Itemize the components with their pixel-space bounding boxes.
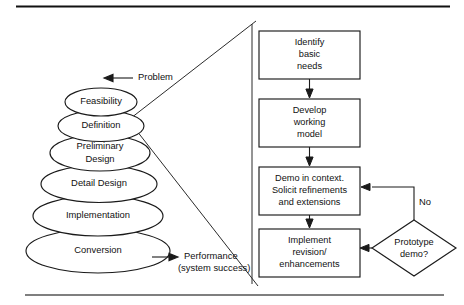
flow-box-identify-line2: basic	[299, 49, 321, 59]
stack-ellipse-feasibility: Feasibility	[65, 88, 137, 116]
flow-arrow-decision-to-implement	[360, 244, 372, 251]
flow-box-implement-line1: Implement	[288, 235, 331, 245]
flow-box-implement-line2: revision/	[292, 247, 327, 257]
stack-label-feasibility: Feasibility	[80, 95, 122, 106]
stack-label-detail-design: Detail Design	[71, 177, 127, 188]
flow-box-demo-line1: Demo in context.	[275, 173, 344, 183]
flow-arrow-demo-to-implement	[306, 215, 313, 228]
flow-arrow-identify-to-develop	[306, 79, 313, 98]
wedge-line-upper	[131, 21, 256, 118]
flow-box-demo-line2: Solicit refinements	[272, 185, 347, 195]
flow-box-develop-line3: model	[297, 129, 322, 139]
stack-label-definition: Definition	[81, 119, 120, 130]
problem-arrowhead	[104, 74, 113, 81]
flow-arrow-develop-to-demo	[306, 147, 313, 166]
flow-box-develop-line1: Develop	[293, 105, 327, 115]
stack-label-conversion: Conversion	[74, 244, 121, 255]
flow-decision-label-line1: Prototype	[394, 237, 433, 247]
flow-edge-label-no: No	[419, 196, 431, 207]
flow-edge-no-loop: No	[361, 183, 431, 220]
flow-decision-label-line2: demo?	[400, 249, 428, 259]
flow-box-implement-revision: Implement revision/ enhancements	[259, 229, 360, 277]
flow-box-implement-line3: enhancements	[279, 259, 340, 269]
flow-decision-prototype-demo: Prototype demo?	[372, 220, 456, 276]
flow-box-develop-line2: working	[293, 117, 326, 127]
stack-label-preliminary-design-line2: Design	[85, 153, 114, 164]
flow-box-demo-in-context: Demo in context. Solicit refinements and…	[259, 167, 360, 215]
annotation-performance-label-line2: (system success)	[178, 262, 250, 273]
stack-label-preliminary-design-line1: Preliminary	[77, 140, 124, 151]
stack-label-implementation: Implementation	[66, 209, 130, 220]
annotation-performance-label-line1: Performance	[184, 250, 238, 261]
annotation-problem-label: Problem	[138, 71, 173, 82]
performance-arrowhead	[169, 253, 178, 260]
figure-root: Conversion Implementation Detail Design …	[0, 0, 464, 305]
flow-box-identify-basic-needs: Identify basic needs	[259, 31, 360, 79]
flow-box-identify-line3: needs	[297, 61, 322, 71]
flow-box-develop-working-model: Develop working model	[259, 99, 360, 147]
flow-box-identify-line1: Identify	[295, 37, 325, 47]
flow-box-demo-line3: and extensions	[279, 197, 341, 207]
annotation-problem: Problem	[104, 71, 173, 82]
